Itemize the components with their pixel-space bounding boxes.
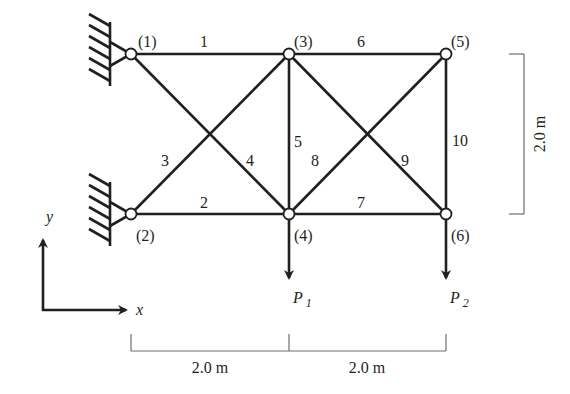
node-4 bbox=[284, 209, 295, 220]
node-2 bbox=[126, 209, 137, 220]
member-label-9: 9 bbox=[401, 152, 409, 169]
node-label-6: (6) bbox=[451, 227, 470, 245]
member-label-10: 10 bbox=[452, 132, 468, 149]
pin-support-node-1 bbox=[89, 14, 131, 86]
member-label-2: 2 bbox=[200, 194, 208, 211]
member-label-4: 4 bbox=[246, 152, 254, 169]
node-label-2: (2) bbox=[136, 227, 155, 245]
node-label-4: (4) bbox=[294, 227, 313, 245]
coordinate-axes: y x bbox=[42, 208, 143, 318]
member-label-7: 7 bbox=[357, 194, 365, 211]
node-6 bbox=[441, 209, 452, 220]
pin-support-node-2 bbox=[89, 174, 131, 246]
node-1 bbox=[126, 49, 137, 60]
node-3 bbox=[284, 49, 295, 60]
truss-members bbox=[131, 54, 446, 214]
x-axis-label: x bbox=[135, 301, 143, 318]
node-label-3: (3) bbox=[294, 33, 313, 51]
dimension-label-right: 2.0 m bbox=[349, 359, 386, 376]
hatch-icon bbox=[89, 14, 110, 81]
member-label-3: 3 bbox=[161, 152, 169, 169]
truss-diagram: (1) (2) (3) (4) (5) (6) 1 2 3 4 5 6 7 8 … bbox=[0, 0, 570, 394]
horizontal-dimension: 2.0 m 2.0 m bbox=[131, 334, 446, 376]
member-label-5: 5 bbox=[294, 133, 302, 150]
dimension-label-left: 2.0 m bbox=[192, 359, 229, 376]
dimension-label-vertical: 2.0 m bbox=[531, 115, 548, 152]
y-axis-label: y bbox=[44, 208, 54, 226]
node-5 bbox=[441, 49, 452, 60]
member-label-1: 1 bbox=[200, 33, 208, 50]
hatch-icon bbox=[89, 174, 110, 241]
member-label-6: 6 bbox=[357, 33, 365, 50]
member-label-8: 8 bbox=[311, 152, 319, 169]
node-label-5: (5) bbox=[451, 33, 470, 51]
node-label-1: (1) bbox=[138, 33, 157, 51]
vertical-dimension: 2.0 m bbox=[509, 54, 548, 214]
load-label-p2: P2 bbox=[449, 289, 469, 310]
load-label-p1: P1 bbox=[292, 289, 312, 310]
